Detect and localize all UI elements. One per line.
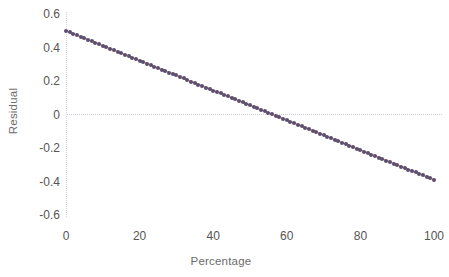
y-tick-label: 0 — [14, 109, 60, 121]
fit-line — [66, 14, 434, 215]
y-tick-label: 0.4 — [14, 42, 60, 54]
x-tick-label: 20 — [120, 230, 160, 242]
x-axis-title: Percentage — [0, 255, 442, 267]
x-tick-label: 80 — [340, 230, 380, 242]
x-tick-label: 40 — [193, 230, 233, 242]
y-tick-label: 0.6 — [14, 8, 60, 20]
y-axis-title: Residual — [7, 71, 19, 151]
y-tick-label: -0.4 — [14, 176, 60, 188]
y-tick-label: -0.6 — [14, 209, 60, 221]
x-tick-label: 100 — [414, 230, 449, 242]
data-point — [432, 178, 436, 182]
x-tick-label: 60 — [267, 230, 307, 242]
y-tick-label: 0.2 — [14, 75, 60, 87]
y-tick-label: -0.2 — [14, 142, 60, 154]
x-tick-label: 0 — [46, 230, 86, 242]
plot-area — [66, 14, 434, 215]
